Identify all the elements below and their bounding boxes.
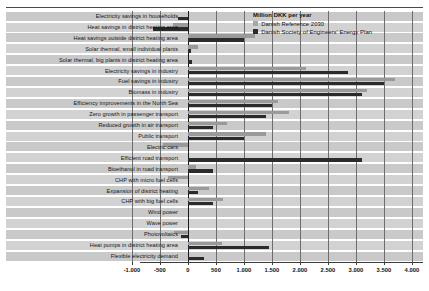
category-row: Reduced growth in air transport [0,120,429,131]
category-row: Solar thermal, small individual plants [0,44,429,55]
x-tick [300,262,301,265]
category-label: CHP with big fuel cells [0,196,182,207]
x-tick [216,262,217,265]
category-label: Solar thermal, big plants in district he… [0,55,182,66]
category-label: Fuel savings in industry [0,76,182,87]
category-rows: Electricity savings in householdsHeat sa… [0,11,429,262]
category-row: Heat pumps in district heating area [0,240,429,251]
category-label: Zero growth in passenger transport [0,109,182,120]
plot-area: Electricity savings in householdsHeat sa… [0,11,429,262]
category-label: Biomass in industry [0,87,182,98]
x-tick-label: 1.000 [237,267,252,273]
legend-title: Million DKK per year [253,12,372,18]
x-tick [188,262,189,265]
x-tick-label: 0 [186,267,189,273]
category-row: Fuel savings in industry [0,76,429,87]
legend-item-reference: Danish Reference 2030 [253,21,372,27]
category-row: Zero growth in passenger transport [0,109,429,120]
category-label: Efficiency improvements in the North Sea [0,98,182,109]
category-label: Electric cars [0,142,182,153]
category-row: Expansion of district heating [0,186,429,197]
legend: Million DKK per year Danish Reference 20… [253,12,372,37]
category-row: Efficient road transport [0,153,429,164]
legend-label-energy-plan: Danish Society of Engineers' Energy Plan [261,29,372,35]
x-tick [412,262,413,265]
bar-chart: Electricity savings in householdsHeat sa… [0,0,429,291]
legend-item-energy-plan: Danish Society of Engineers' Energy Plan [253,29,372,35]
category-label: Bioethanol in road transport [0,164,182,175]
x-tick [272,262,273,265]
category-label: Reduced growth in air transport [0,120,182,131]
category-label: Wave power [0,218,182,229]
category-label: CHP with micro fuel cells [0,175,182,186]
x-axis-line [140,262,423,263]
category-label: Photovoltaics [0,229,182,240]
category-row: Solar thermal, big plants in district he… [0,55,429,66]
category-row: Public transport [0,131,429,142]
x-tick [384,262,385,265]
legend-swatch-icon-energy-plan [253,29,258,34]
category-row: Electricity savings in industry [0,66,429,77]
category-label: Heat pumps in district heating area [0,240,182,251]
category-row: CHP with big fuel cells [0,196,429,207]
category-row: Bioethanol in road transport [0,164,429,175]
x-axis: -1.000-50005001.0001.5002.0002.5003.0003… [0,262,429,291]
category-row: Electric cars [0,142,429,153]
x-tick [328,262,329,265]
category-row: Wave power [0,218,429,229]
category-label: Public transport [0,131,182,142]
category-label: Solar thermal, small individual plants [0,44,182,55]
category-label: Electricity savings in industry [0,66,182,77]
category-label: Heat savings in district heating area [0,22,182,33]
category-label: Electricity savings in households [0,11,182,22]
x-tick [244,262,245,265]
x-tick-label: -500 [154,267,166,273]
x-tick [160,262,161,265]
category-label: Heat savings outside district heating ar… [0,33,182,44]
category-row: Biomass in industry [0,87,429,98]
category-row: CHP with micro fuel cells [0,175,429,186]
category-label: Expansion of district heating [0,186,182,197]
category-row: Flexible electricity demand [0,251,429,262]
category-label: Efficient road transport [0,153,182,164]
category-row: Wind power [0,207,429,218]
legend-swatch-icon-reference [253,21,258,26]
x-tick-label: 4.000 [405,267,420,273]
category-label: Flexible electricity demand [0,251,182,262]
x-tick-label: 500 [211,267,221,273]
legend-label-reference: Danish Reference 2030 [261,21,324,27]
x-tick-label: 1.500 [265,267,280,273]
x-tick [132,262,133,265]
category-label: Wind power [0,207,182,218]
x-tick-label: 2.500 [321,267,336,273]
x-tick-label: 2.000 [293,267,308,273]
top-divider-rule [6,7,423,8]
category-row: Efficiency improvements in the North Sea [0,98,429,109]
x-tick-label: 3.500 [377,267,392,273]
x-tick-label: 3.000 [349,267,364,273]
x-tick-label: -1.000 [124,267,141,273]
x-tick [356,262,357,265]
category-row: Photovoltaics [0,229,429,240]
